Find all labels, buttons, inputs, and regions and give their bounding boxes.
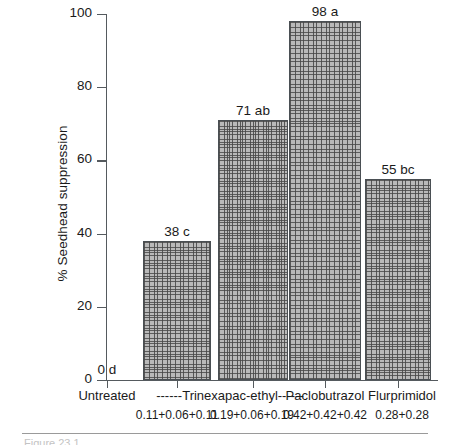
y-tick-20: 20: [97, 307, 106, 308]
y-tick-80: 80: [97, 87, 106, 88]
y-tick-60: 60: [97, 160, 106, 161]
plot-area: 100 80 60 40 20 0 0 d 38 c 71 ab: [106, 14, 436, 380]
bar-trinexapac-low: 38 c: [143, 241, 211, 380]
y-tick-label-60: 60: [77, 151, 92, 166]
bar-paclobutrazol: 98 a: [289, 21, 361, 380]
caption-divider: [22, 433, 428, 434]
y-tick-label-20: 20: [77, 298, 92, 313]
x-label-untreated: Untreated: [66, 388, 148, 403]
bar-flurprimidol: 55 bc: [365, 179, 431, 380]
x-tick-untreated: [107, 380, 108, 388]
y-tick-0: 0: [97, 380, 106, 381]
x-label-flurprimidol: Flurprimidol: [358, 388, 446, 403]
y-tick-100: 100: [97, 14, 106, 15]
y-tick-label-0: 0: [84, 371, 92, 386]
bar-value-paclobutrazol: 98 a: [312, 4, 338, 19]
caption-text-clipped: Figure 23.1.: [24, 437, 424, 445]
dose-label-flurprimidol: 0.28+0.28: [358, 408, 446, 422]
x-tick-flurprimidol: [398, 380, 399, 388]
y-tick-40: 40: [97, 234, 106, 235]
bar-value-trinexapac-low: 38 c: [164, 224, 190, 239]
bar-value-flurprimidol: 55 bc: [381, 162, 414, 177]
x-tick-trinexapac-low: [177, 380, 178, 388]
x-tick-paclobutrazol: [325, 380, 326, 388]
bar-trinexapac-high: 71 ab: [218, 120, 288, 380]
x-tick-trinexapac-high: [253, 380, 254, 388]
bar-value-trinexapac-high: 71 ab: [236, 103, 270, 118]
y-axis-title: % Seedhead suppression: [55, 74, 70, 334]
bar-chart-figure: % Seedhead suppression 100 80 60 40 20 0: [0, 0, 450, 445]
y-tick-label-80: 80: [77, 78, 92, 93]
x-axis-line: [106, 380, 438, 381]
y-tick-label-100: 100: [69, 5, 92, 20]
y-tick-label-40: 40: [77, 225, 92, 240]
bar-value-untreated: 0 d: [98, 362, 117, 377]
